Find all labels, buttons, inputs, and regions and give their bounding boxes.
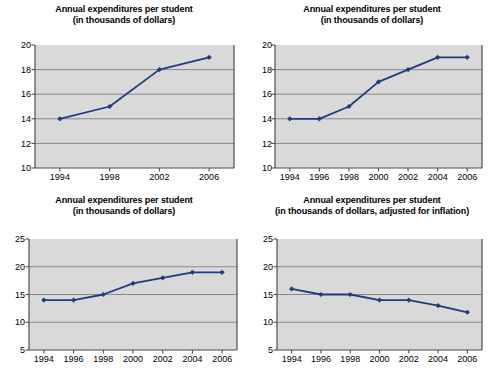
y-axis-labels: 101214161820 bbox=[262, 40, 272, 173]
svg-text:1996: 1996 bbox=[64, 354, 84, 364]
svg-text:2002: 2002 bbox=[149, 172, 169, 182]
svg-text:2002: 2002 bbox=[153, 354, 173, 364]
chart-plot-bottom-left: 510152025 1994199619982000200220042006 bbox=[0, 192, 248, 384]
svg-text:10: 10 bbox=[262, 163, 272, 173]
svg-text:20: 20 bbox=[262, 40, 272, 50]
svg-text:2004: 2004 bbox=[182, 354, 202, 364]
svg-text:2006: 2006 bbox=[457, 172, 477, 182]
svg-text:25: 25 bbox=[15, 234, 25, 244]
svg-text:10: 10 bbox=[263, 317, 273, 327]
svg-text:2006: 2006 bbox=[457, 354, 477, 364]
svg-text:16: 16 bbox=[262, 89, 272, 99]
svg-text:2004: 2004 bbox=[428, 354, 448, 364]
chart-panel-top-right: Annual expenditures per student (in thou… bbox=[248, 0, 496, 192]
chart-plot-top-left: 101214161820 1994199820022006 bbox=[0, 0, 248, 192]
svg-text:2002: 2002 bbox=[399, 354, 419, 364]
plot-background bbox=[275, 45, 482, 168]
svg-text:2006: 2006 bbox=[199, 172, 219, 182]
svg-text:1994: 1994 bbox=[282, 354, 302, 364]
svg-text:20: 20 bbox=[15, 262, 25, 272]
svg-text:5: 5 bbox=[20, 345, 25, 355]
svg-text:14: 14 bbox=[262, 114, 272, 124]
svg-text:2000: 2000 bbox=[368, 172, 388, 182]
plot-background bbox=[35, 45, 234, 168]
svg-text:1994: 1994 bbox=[50, 172, 70, 182]
svg-text:1998: 1998 bbox=[100, 172, 120, 182]
svg-text:1994: 1994 bbox=[280, 172, 300, 182]
svg-text:2004: 2004 bbox=[428, 172, 448, 182]
svg-text:25: 25 bbox=[263, 234, 273, 244]
svg-text:2000: 2000 bbox=[369, 354, 389, 364]
svg-text:10: 10 bbox=[15, 317, 25, 327]
chart-panel-top-left: Annual expenditures per student (in thou… bbox=[0, 0, 248, 192]
svg-text:1994: 1994 bbox=[34, 354, 54, 364]
chart-panel-bottom-right: Annual expenditures per student (in thou… bbox=[248, 192, 496, 384]
svg-text:1998: 1998 bbox=[93, 354, 113, 364]
svg-text:16: 16 bbox=[21, 89, 31, 99]
svg-text:2002: 2002 bbox=[398, 172, 418, 182]
chart-plot-bottom-right: 510152025 1994199619982000200220042006 bbox=[248, 192, 496, 384]
svg-text:15: 15 bbox=[263, 290, 273, 300]
x-axis-labels: 1994199619982000200220042006 bbox=[282, 354, 478, 364]
svg-text:18: 18 bbox=[21, 65, 31, 75]
x-axis-labels: 1994199619982000200220042006 bbox=[34, 354, 232, 364]
svg-text:5: 5 bbox=[268, 345, 273, 355]
svg-text:2000: 2000 bbox=[123, 354, 143, 364]
svg-text:1996: 1996 bbox=[309, 172, 329, 182]
y-axis-labels: 510152025 bbox=[263, 234, 273, 355]
x-axis-labels: 1994199619982000200220042006 bbox=[280, 172, 477, 182]
svg-text:2006: 2006 bbox=[212, 354, 232, 364]
svg-text:12: 12 bbox=[262, 139, 272, 149]
svg-text:14: 14 bbox=[21, 114, 31, 124]
svg-text:20: 20 bbox=[21, 40, 31, 50]
svg-text:1996: 1996 bbox=[311, 354, 331, 364]
chart-plot-top-right: 101214161820 199419961998200020022004200… bbox=[248, 0, 496, 192]
svg-text:20: 20 bbox=[263, 262, 273, 272]
svg-text:1998: 1998 bbox=[340, 354, 360, 364]
svg-text:18: 18 bbox=[262, 65, 272, 75]
y-axis-labels: 510152025 bbox=[15, 234, 25, 355]
y-axis-labels: 101214161820 bbox=[21, 40, 31, 173]
svg-text:12: 12 bbox=[21, 139, 31, 149]
svg-text:10: 10 bbox=[21, 163, 31, 173]
svg-text:1998: 1998 bbox=[339, 172, 359, 182]
x-axis-labels: 1994199820022006 bbox=[50, 172, 219, 182]
chart-panel-bottom-left: Annual expenditures per student (in thou… bbox=[0, 192, 248, 384]
svg-text:15: 15 bbox=[15, 290, 25, 300]
